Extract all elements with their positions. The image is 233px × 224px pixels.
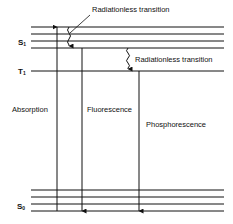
fluorescence-label: Fluorescence [87,105,132,114]
radiationless-wavy-arrow-isc [127,48,130,69]
radiationless-wavy-arrow-s1 [68,27,71,46]
s1-label: S1 [18,38,26,47]
radiationless-label-top: Radiationless transition [92,5,170,14]
s1-levels [31,27,224,48]
s0-label: S0 [17,202,25,211]
absorption-label: Absorption [12,105,48,114]
t1-label: T1 [18,67,26,76]
radiationless-label-isc: Radiationless transition [135,55,213,64]
s0-levels [31,190,224,211]
radiationless-pointer-line [70,15,90,33]
phosphorescence-label: Phosphorescence [146,120,206,129]
jablonski-diagram: S1 T1 S0 Absorption Radiationless transi… [0,0,233,224]
